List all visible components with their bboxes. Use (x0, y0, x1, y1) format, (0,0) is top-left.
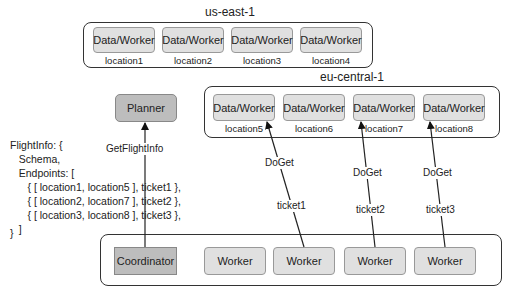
flightinfo-line-5: { [ location2, location7 ], ticket2 }, (10, 195, 181, 209)
edge-label-doget-1: DoGet (264, 157, 295, 169)
flightinfo-line-4: { [ location1, location5 ], ticket1 }, (10, 181, 181, 195)
edge-label-getflightinfo: GetFlightInfo (105, 143, 164, 155)
edge-label-ticket-2: ticket2 (355, 204, 386, 216)
edge-label-doget-2: DoGet (352, 167, 383, 179)
flightinfo-line-3: Endpoints: [ (10, 167, 74, 181)
flightinfo-line-1: FlightInfo: { (10, 139, 63, 153)
edge-label-ticket-3: ticket3 (425, 204, 456, 216)
edge-label-doget-3: DoGet (422, 167, 453, 179)
flightinfo-line-8: } (10, 227, 14, 241)
connector-arrows (0, 0, 510, 295)
flightinfo-line-6: { [ location3, location8 ], ticket3 }, (10, 209, 181, 223)
edge-label-ticket-1: ticket1 (276, 200, 307, 212)
flightinfo-line-2: Schema, (10, 153, 60, 167)
